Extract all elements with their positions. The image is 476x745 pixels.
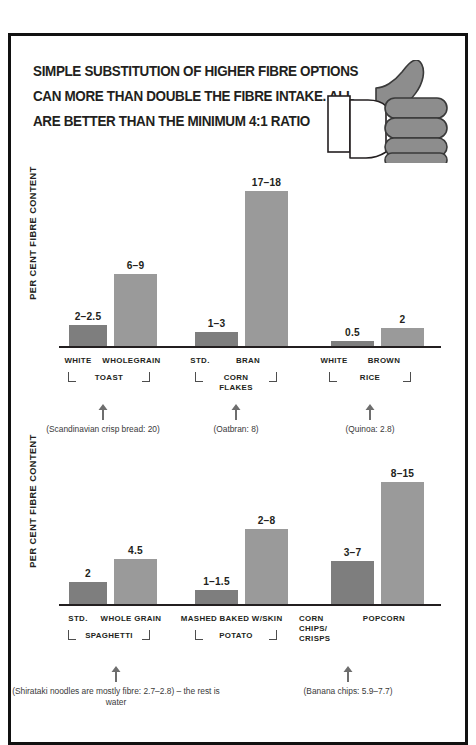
catlabel-corn-chips-line1: CORN — [299, 614, 345, 624]
catlabel-corn-chips-line3: CRISPS — [299, 634, 345, 644]
catlabel-brown-rice: BROWN — [359, 356, 409, 366]
group-label-cornflakes-line2: FLAKES — [195, 383, 277, 393]
group-bracket-potato: POTATO — [195, 630, 277, 639]
catlabel-wholegrain-toast: WHOLEGRAIN — [94, 356, 169, 366]
chart1-y-axis-label: PER CENT FIBRE CONTENT — [28, 158, 38, 308]
bar-baked-potato — [245, 529, 288, 604]
chart2-x-axis — [59, 604, 441, 606]
bar-value-std-spaghetti: 2 — [69, 568, 107, 579]
catlabel-baked-potato: BAKED W/SKIN — [217, 614, 285, 624]
bar-value-baked-potato: 2–8 — [245, 515, 288, 526]
chart-toast-cornflakes-rice: PER CENT FIBRE CONTENT 2–2.5 6–9 1–3 17–… — [11, 176, 471, 436]
bar-value-wholegrain-toast: 6–9 — [114, 260, 157, 271]
bar-value-wholegrain-spaghetti: 4.5 — [114, 545, 157, 556]
bar-value-popcorn: 8–15 — [381, 468, 424, 479]
bar-value-std-cornflakes: 1–3 — [195, 318, 238, 329]
up-arrow-icon — [111, 666, 121, 682]
chart2-plot-area: 2 4.5 1–1.5 2–8 3–7 8–15 — [59, 454, 441, 606]
up-arrow-icon — [231, 404, 241, 420]
bar-value-white-toast: 2–2.5 — [69, 311, 107, 322]
group-label-cornflakes-line1: CORN — [195, 373, 277, 383]
bar-white-rice — [331, 341, 374, 346]
bar-bran-cornflakes — [245, 191, 288, 346]
group-bracket-toast: TOAST — [68, 372, 150, 381]
catlabel-std-cornflakes: STD. — [175, 356, 225, 366]
bar-value-bran-cornflakes: 17–18 — [245, 177, 288, 188]
bar-brown-rice — [381, 328, 424, 346]
headline-line-3: ARE BETTER THAN THE MINIMUM 4:1 RATIO — [33, 108, 288, 133]
bar-white-toast — [69, 325, 107, 346]
bar-value-mashed-potato: 1–1.5 — [195, 576, 238, 587]
up-arrow-icon — [343, 666, 353, 682]
catlabel-corn-chips-line2: CHIPS/ — [299, 624, 345, 634]
bar-std-spaghetti — [69, 582, 107, 604]
footnote-text: (Oatbran: 8) — [161, 424, 311, 435]
headline-line-2: CAN MORE THAN DOUBLE THE FIBRE INTAKE. A… — [33, 83, 288, 108]
bar-mashed-potato — [195, 590, 238, 604]
headline-line-1: SIMPLE SUBSTITUTION OF HIGHER FIBRE OPTI… — [33, 58, 288, 83]
group-bracket-spaghetti: SPAGHETTI — [68, 630, 150, 639]
bar-std-cornflakes — [195, 332, 238, 346]
chart1-x-axis — [59, 346, 441, 348]
catlabel-popcorn: POPCORN — [356, 614, 412, 624]
bar-wholegrain-toast — [114, 274, 157, 346]
bar-popcorn — [381, 482, 424, 604]
group-label-potato: POTATO — [195, 631, 277, 641]
bar-value-white-rice: 0.5 — [331, 327, 374, 338]
catlabel-bran-cornflakes: BRAN — [223, 356, 273, 366]
page-title: SIMPLE SUBSTITUTION OF HIGHER FIBRE OPTI… — [33, 58, 323, 133]
group-bracket-cornflakes: CORN FLAKES — [195, 372, 277, 381]
bar-value-brown-rice: 2 — [381, 314, 424, 325]
footnote-text: (Shirataki noodles are mostly fibre: 2.7… — [1, 686, 231, 708]
infographic-panel: SIMPLE SUBSTITUTION OF HIGHER FIBRE OPTI… — [8, 33, 468, 745]
group-label-rice: RICE — [329, 373, 411, 383]
group-bracket-rice: RICE — [329, 372, 411, 381]
up-arrow-icon — [365, 404, 375, 420]
bar-corn-chips — [331, 561, 374, 604]
footnote-text: (Quinoa: 2.8) — [295, 424, 445, 435]
catlabel-white-rice: WHITE — [309, 356, 359, 366]
group-label-spaghetti: SPAGHETTI — [68, 631, 150, 641]
footnote-text: (Banana chips: 5.9–7.7) — [263, 686, 433, 697]
group-label-toast: TOAST — [68, 373, 150, 383]
chart1-plot-area: 2–2.5 6–9 1–3 17–18 0.5 2 — [59, 176, 441, 348]
chart2-y-axis-label: PER CENT FIBRE CONTENT — [28, 426, 38, 576]
bar-wholegrain-spaghetti — [114, 559, 157, 604]
up-arrow-icon — [98, 404, 108, 420]
bar-value-corn-chips: 3–7 — [331, 547, 374, 558]
thumbs-up-icon — [324, 60, 456, 163]
chart-spaghetti-potato-snacks: PER CENT FIBRE CONTENT 2 4.5 1–1.5 2–8 3… — [11, 454, 471, 740]
catlabel-wholegrain-spaghetti: WHOLE GRAIN — [91, 614, 171, 624]
